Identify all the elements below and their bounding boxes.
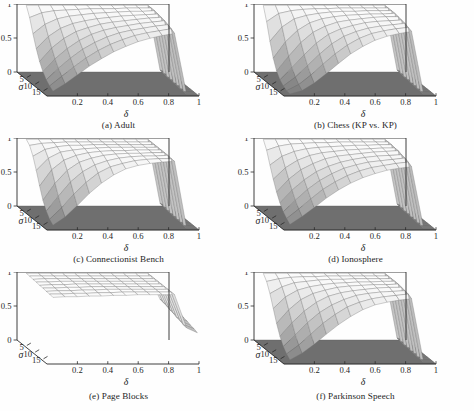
svg-text:0.8: 0.8 bbox=[163, 231, 174, 241]
subplot-caption-c: (c) Connectionist Bench bbox=[0, 254, 237, 264]
svg-text:15: 15 bbox=[32, 87, 41, 97]
surface-plot-d: 10.50510150.20.40.60.81γσδ bbox=[237, 138, 474, 251]
svg-text:0: 0 bbox=[7, 335, 11, 345]
svg-text:10: 10 bbox=[261, 349, 270, 359]
svg-text:10: 10 bbox=[261, 215, 270, 225]
svg-text:1: 1 bbox=[197, 97, 201, 107]
svg-text:0.8: 0.8 bbox=[400, 97, 411, 107]
surface-plot-f: 10.50510150.20.40.60.81γσδ bbox=[237, 272, 474, 385]
svg-text:0.4: 0.4 bbox=[339, 365, 350, 375]
svg-text:1: 1 bbox=[434, 97, 438, 107]
svg-text:0: 0 bbox=[7, 201, 11, 211]
svg-text:δ: δ bbox=[124, 242, 129, 252]
svg-text:10: 10 bbox=[24, 215, 33, 225]
svg-text:1: 1 bbox=[197, 365, 201, 375]
svg-text:δ: δ bbox=[361, 242, 366, 252]
svg-text:0.6: 0.6 bbox=[133, 231, 144, 241]
svg-text:15: 15 bbox=[32, 221, 41, 231]
subplot-f: 10.50510150.20.40.60.81γσδ(f) Parkinson … bbox=[237, 272, 474, 409]
surface-plot-e: 10.50510150.20.40.60.81γσδ bbox=[0, 272, 237, 385]
subplot-b: 10.50510150.20.40.60.81γσδ(b) Chess (KP … bbox=[237, 4, 474, 141]
svg-text:0.6: 0.6 bbox=[133, 365, 144, 375]
svg-text:0: 0 bbox=[244, 335, 248, 345]
svg-text:10: 10 bbox=[261, 81, 270, 91]
svg-text:δ: δ bbox=[361, 108, 366, 118]
svg-text:15: 15 bbox=[32, 355, 41, 365]
svg-text:0.6: 0.6 bbox=[370, 97, 381, 107]
svg-text:0.4: 0.4 bbox=[339, 231, 350, 241]
svg-text:0.6: 0.6 bbox=[370, 231, 381, 241]
svg-text:1: 1 bbox=[244, 272, 248, 277]
svg-text:0.8: 0.8 bbox=[163, 365, 174, 375]
svg-text:δ: δ bbox=[361, 376, 366, 386]
subplot-d: 10.50510150.20.40.60.81γσδ(d) Ionosphere bbox=[237, 138, 474, 275]
svg-text:0.2: 0.2 bbox=[72, 365, 83, 375]
svg-text:1: 1 bbox=[244, 4, 248, 9]
surface-plot-c: 10.50510150.20.40.60.81γσδ bbox=[0, 138, 237, 251]
svg-text:0.5: 0.5 bbox=[1, 167, 12, 177]
svg-text:0.2: 0.2 bbox=[309, 97, 320, 107]
svg-text:0.4: 0.4 bbox=[102, 231, 113, 241]
svg-text:0.5: 0.5 bbox=[1, 33, 12, 43]
figure-panel-grid: 10.50510150.20.40.60.81γσδ(a) Adult10.50… bbox=[0, 0, 474, 411]
svg-text:δ: δ bbox=[124, 376, 129, 386]
svg-text:0.4: 0.4 bbox=[102, 365, 113, 375]
svg-text:1: 1 bbox=[7, 272, 11, 277]
subplot-a: 10.50510150.20.40.60.81γσδ(a) Adult bbox=[0, 4, 237, 141]
subplot-c: 10.50510150.20.40.60.81γσδ(c) Connection… bbox=[0, 138, 237, 275]
subplot-caption-e: (e) Page Blocks bbox=[0, 391, 237, 401]
svg-text:0: 0 bbox=[244, 67, 248, 77]
subplot-caption-f: (f) Parkinson Speech bbox=[237, 391, 474, 401]
svg-text:0.2: 0.2 bbox=[309, 365, 320, 375]
svg-text:0: 0 bbox=[244, 201, 248, 211]
svg-text:1: 1 bbox=[434, 231, 438, 241]
svg-text:0.5: 0.5 bbox=[238, 301, 249, 311]
svg-text:0.5: 0.5 bbox=[238, 167, 249, 177]
svg-text:0: 0 bbox=[7, 67, 11, 77]
svg-text:1: 1 bbox=[7, 4, 11, 9]
svg-text:0.5: 0.5 bbox=[1, 301, 12, 311]
svg-text:0.2: 0.2 bbox=[72, 97, 83, 107]
svg-text:1: 1 bbox=[197, 231, 201, 241]
svg-text:0.8: 0.8 bbox=[400, 365, 411, 375]
surface-plot-a: 10.50510150.20.40.60.81γσδ bbox=[0, 4, 237, 117]
svg-text:15: 15 bbox=[269, 355, 278, 365]
svg-text:0.6: 0.6 bbox=[370, 365, 381, 375]
svg-text:1: 1 bbox=[244, 138, 248, 143]
svg-text:0.6: 0.6 bbox=[133, 97, 144, 107]
svg-text:15: 15 bbox=[269, 87, 278, 97]
svg-text:0.5: 0.5 bbox=[238, 33, 249, 43]
svg-text:15: 15 bbox=[269, 221, 278, 231]
subplot-caption-d: (d) Ionosphere bbox=[237, 254, 474, 264]
svg-text:0.4: 0.4 bbox=[102, 97, 113, 107]
surface-plot-b: 10.50510150.20.40.60.81γσδ bbox=[237, 4, 474, 117]
svg-text:1: 1 bbox=[7, 138, 11, 143]
svg-text:0.2: 0.2 bbox=[309, 231, 320, 241]
svg-text:δ: δ bbox=[124, 108, 129, 118]
svg-text:10: 10 bbox=[24, 349, 33, 359]
subplot-caption-b: (b) Chess (KP vs. KP) bbox=[237, 120, 474, 130]
subplot-e: 10.50510150.20.40.60.81γσδ(e) Page Block… bbox=[0, 272, 237, 409]
svg-text:0.4: 0.4 bbox=[339, 97, 350, 107]
svg-text:0.8: 0.8 bbox=[163, 97, 174, 107]
svg-text:0.2: 0.2 bbox=[72, 231, 83, 241]
svg-text:10: 10 bbox=[24, 81, 33, 91]
subplot-caption-a: (a) Adult bbox=[0, 120, 237, 130]
svg-text:1: 1 bbox=[434, 365, 438, 375]
svg-text:0.8: 0.8 bbox=[400, 231, 411, 241]
